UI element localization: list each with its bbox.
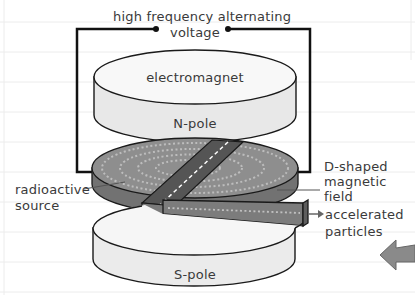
- nav-back-arrow-icon[interactable]: [380, 240, 415, 270]
- north-pole-label: N-pole: [160, 116, 230, 131]
- output-label-line1: accelerated: [325, 207, 404, 222]
- output-arrow-icon: [309, 210, 324, 218]
- dee-label-line1: D-shaped: [324, 159, 388, 174]
- dee-label-line3: field: [324, 189, 353, 204]
- voltage-label-line1: high frequency alternating: [113, 9, 283, 24]
- source-label-line1: radioactive: [15, 182, 90, 197]
- south-pole-label: S-pole: [160, 267, 230, 282]
- dee-label-line2: magnetic: [324, 174, 387, 189]
- voltage-label-line2: voltage: [160, 25, 230, 40]
- cyclotron-diagram: [0, 0, 415, 295]
- source-label-line2: source: [15, 198, 59, 213]
- output-label-line2: particles: [325, 224, 383, 239]
- electromagnet-label: electromagnet: [140, 70, 250, 85]
- terminal-dot-left: [153, 26, 159, 32]
